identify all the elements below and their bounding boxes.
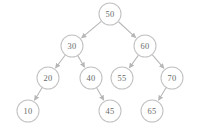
edge-layer xyxy=(34,21,166,100)
node-label-60: 60 xyxy=(141,42,150,51)
tree-edge-30-to-40 xyxy=(78,56,85,67)
tree-node-40: 40 xyxy=(80,67,102,89)
tree-node-30: 30 xyxy=(61,35,83,57)
binary-tree-diagram: 50306020405570104565 xyxy=(0,0,200,134)
node-label-10: 10 xyxy=(24,107,33,116)
tree-node-10: 10 xyxy=(17,100,39,122)
tree-edge-20-to-10 xyxy=(34,88,42,100)
tree-node-20: 20 xyxy=(37,67,59,89)
node-label-30: 30 xyxy=(68,42,77,51)
tree-edge-60-to-70 xyxy=(152,55,164,69)
tree-edge-70-to-65 xyxy=(158,88,166,100)
tree-edge-50-to-30 xyxy=(82,21,102,38)
tree-edge-60-to-55 xyxy=(129,55,138,68)
tree-node-55: 55 xyxy=(111,67,133,89)
tree-node-60: 60 xyxy=(134,35,156,57)
node-label-50: 50 xyxy=(106,10,115,19)
node-label-65: 65 xyxy=(148,107,157,116)
tree-edge-30-to-20 xyxy=(56,55,66,68)
tree-node-65: 65 xyxy=(141,100,163,122)
tree-edge-50-to-60 xyxy=(118,22,135,38)
node-label-40: 40 xyxy=(87,74,96,83)
tree-node-70: 70 xyxy=(161,67,183,89)
node-label-20: 20 xyxy=(44,74,53,83)
node-label-45: 45 xyxy=(106,107,115,116)
tree-edge-40-to-45 xyxy=(97,88,104,100)
tree-node-45: 45 xyxy=(99,100,121,122)
node-layer: 50306020405570104565 xyxy=(17,3,183,122)
node-label-70: 70 xyxy=(168,74,177,83)
node-label-55: 55 xyxy=(118,74,127,83)
tree-node-50: 50 xyxy=(99,3,121,25)
tree-canvas: 50306020405570104565 xyxy=(0,0,200,134)
